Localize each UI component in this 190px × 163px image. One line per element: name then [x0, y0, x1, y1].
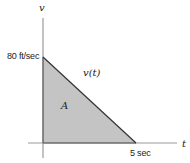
x-intercept-label: 5 sec: [130, 149, 151, 158]
area-label: A: [61, 101, 68, 111]
v-axis-label: v: [39, 3, 45, 13]
curve-label: v(t): [83, 68, 100, 78]
velocity-diagram: [0, 0, 190, 163]
y-intercept-label: 80 ft/sec: [7, 52, 39, 61]
t-axis-label: t: [182, 139, 186, 149]
